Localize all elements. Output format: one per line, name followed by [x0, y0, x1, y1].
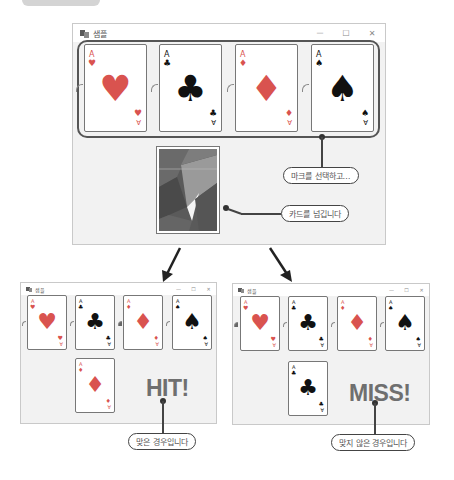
radio-spade[interactable] [302, 84, 309, 92]
spade-icon: ♠ [361, 109, 369, 118]
radio-club[interactable] [70, 321, 74, 326]
diamond-icon: ♦ [124, 311, 162, 333]
close-button[interactable]: ✕ [201, 286, 216, 292]
minimize-button[interactable]: — [384, 287, 399, 293]
callout-connector [162, 401, 164, 435]
spade-icon: ♠ [173, 311, 211, 333]
radio-spade[interactable] [166, 321, 170, 326]
card-ace-spade[interactable]: A ♠ ♠ ♠ ∀ [311, 44, 374, 132]
card-ace-club[interactable]: A ♣ ♣ ♣ ∀ [288, 296, 328, 351]
heart-icon: ♥ [88, 59, 96, 68]
maximize-button[interactable]: ☐ [333, 29, 359, 38]
minimize-button[interactable]: — [171, 286, 186, 292]
window-controls: — ☐ ✕ [384, 287, 429, 293]
club-icon: ♣ [76, 311, 114, 333]
drawn-card-ace-club: A ♣ ♣ ♣ ∀ [288, 361, 328, 416]
callout-hit: 맞은 경우입니다 [128, 433, 196, 450]
spade-icon: ♠ [175, 304, 180, 310]
diamond-icon: ♦ [78, 367, 83, 373]
club-icon: ♣ [209, 109, 217, 118]
card-rank-inverted: ∀ [363, 120, 368, 127]
heart-icon: ♥ [85, 71, 146, 107]
arrow-down-right-icon [262, 246, 302, 286]
card-back-pattern-icon [159, 149, 217, 231]
callout-connector [241, 213, 281, 215]
title-bar: 샘플 — ☐ ✕ [21, 283, 216, 295]
close-button[interactable]: ✕ [414, 287, 429, 293]
card-ace-heart[interactable]: A ♥ ♥ ♥ ∀ [27, 295, 67, 350]
card-rank-inverted: ∀ [136, 120, 141, 127]
club-icon: ♣ [289, 377, 327, 399]
card-rank-inverted: ∀ [205, 342, 208, 347]
app-icon [80, 29, 89, 38]
card-ace-spade[interactable]: A ♠ ♠ ♠ ∀ [385, 296, 425, 351]
heart-icon: ♥ [241, 312, 279, 334]
card-ace-diamond[interactable]: A ♦ ♦ ♦ ∀ [123, 295, 163, 350]
miss-window: 샘플 — ☐ ✕ A ♥ ♥ ♥ ∀ A ♣ ♣ ♣ ∀ A ♦ ♦ ♦ ∀ A… [232, 283, 430, 425]
result-hit-text: HIT! [146, 375, 189, 402]
card-ace-diamond[interactable]: A ♦ ♦ ♦ ∀ [337, 296, 377, 351]
club-icon: ♣ [291, 305, 296, 311]
diamond-icon: ♦ [338, 312, 376, 334]
window-title: 샘플 [35, 286, 45, 293]
callout-connector [374, 403, 376, 435]
hit-window: 샘플 — ☐ ✕ A ♥ ♥ ♥ ∀ A ♣ ♣ ♣ ∀ A ♦ ♦ ♦ ∀ A… [20, 282, 217, 424]
maximize-button[interactable]: ☐ [399, 287, 414, 293]
radio-heart-selected[interactable] [234, 322, 238, 327]
spade-icon: ♠ [386, 312, 424, 334]
window-title: 샘플 [247, 287, 257, 294]
card-rank-inverted: ∀ [156, 342, 159, 347]
arrow-down-left-icon [160, 246, 200, 286]
diamond-icon: ♦ [239, 59, 247, 68]
close-button[interactable]: ✕ [359, 29, 385, 38]
card-ace-club[interactable]: A ♣ ♣ ♣ ∀ [159, 44, 222, 132]
radio-heart[interactable] [76, 84, 83, 92]
radio-spade[interactable] [380, 322, 384, 327]
card-rank-inverted: ∀ [370, 343, 373, 348]
radio-diamond[interactable] [331, 322, 335, 327]
card-ace-club[interactable]: A ♣ ♣ ♣ ∀ [75, 295, 115, 350]
heart-icon: ♥ [30, 304, 35, 310]
card-back-deck[interactable] [156, 146, 220, 234]
section-label-tab [22, 0, 100, 6]
heart-icon: ♥ [134, 109, 142, 118]
window-controls: — ☐ ✕ [171, 286, 216, 292]
card-rank-inverted: ∀ [321, 408, 324, 413]
result-miss-text: MISS! [349, 380, 410, 407]
radio-diamond[interactable] [227, 84, 234, 92]
card-rank-inverted: ∀ [60, 342, 63, 347]
radio-club[interactable] [283, 322, 287, 327]
diamond-icon: ♦ [285, 109, 293, 118]
diamond-icon: ♦ [126, 304, 131, 310]
card-ace-heart[interactable]: A ♥ ♥ ♥ ∀ [240, 296, 280, 351]
card-rank-inverted: ∀ [287, 120, 292, 127]
heart-icon: ♥ [28, 311, 66, 333]
window-title: 샘플 [93, 28, 107, 39]
radio-diamond-selected[interactable] [118, 321, 122, 326]
callout-connector [321, 137, 323, 167]
heart-icon: ♥ [243, 305, 248, 311]
card-ace-heart[interactable]: A ♥ ♥ ♥ ∀ [84, 44, 147, 132]
card-rank-inverted: ∀ [418, 343, 421, 348]
callout-flip-card: 카드를 넘깁니다 [281, 205, 349, 222]
card-rank-inverted: ∀ [273, 343, 276, 348]
maximize-button[interactable]: ☐ [186, 286, 201, 292]
window-controls: — ☐ ✕ [307, 29, 385, 38]
title-bar: 샘플 — ☐ ✕ [233, 284, 429, 296]
card-ace-diamond[interactable]: A ♦ ♦ ♦ ∀ [235, 44, 298, 132]
club-icon: ♣ [78, 304, 83, 310]
card-rank-inverted: ∀ [108, 342, 111, 347]
spade-icon: ♠ [312, 71, 373, 107]
spade-icon: ♠ [315, 59, 323, 68]
diamond-icon: ♦ [340, 305, 345, 311]
minimize-button[interactable]: — [307, 29, 333, 38]
radio-heart[interactable] [22, 321, 26, 326]
callout-select-mark: 마크를 선택하고… [283, 167, 359, 184]
app-icon [238, 287, 244, 293]
spade-icon: ♠ [388, 305, 393, 311]
club-icon: ♣ [163, 59, 171, 68]
radio-club[interactable] [151, 84, 158, 92]
card-rank-inverted: ∀ [108, 405, 111, 410]
card-ace-spade[interactable]: A ♠ ♠ ♠ ∀ [172, 295, 212, 350]
club-icon: ♣ [291, 370, 296, 376]
